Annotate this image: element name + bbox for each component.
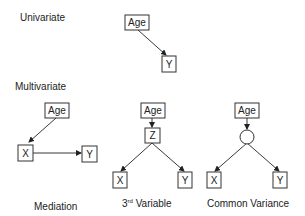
node-age-label: Age <box>128 17 146 28</box>
label-multivariate: Multivariate <box>15 81 67 92</box>
node-x-label: X <box>22 148 29 159</box>
diagram-common-variance: Age X Y <box>207 103 287 188</box>
diagram-third-variable: Age Z X Y <box>113 103 192 188</box>
edge-age-y <box>138 30 166 55</box>
diagram-mediation: Age X Y <box>18 103 97 162</box>
node-age-label: Age <box>48 105 66 116</box>
node-y-label: Y <box>86 149 93 160</box>
label-common-variance: Common Variance <box>207 198 290 209</box>
node-x-label: X <box>211 175 218 186</box>
edge-z-x <box>121 143 152 171</box>
node-age-label: Age <box>238 105 256 116</box>
node-y-label: Y <box>182 175 189 186</box>
node-x-label: X <box>117 175 124 186</box>
edge-age-x <box>29 118 56 142</box>
causal-diagrams: Univariate Multivariate Mediation 3rd Va… <box>0 0 305 216</box>
node-y-label: Y <box>166 59 173 70</box>
latent-variable-circle <box>240 130 254 144</box>
node-y-label: Y <box>277 175 284 186</box>
label-mediation: Mediation <box>34 201 77 212</box>
edge-latent-x <box>215 143 247 171</box>
edge-latent-y <box>247 143 279 171</box>
diagram-univariate: Age Y <box>125 15 176 72</box>
label-third-variable: 3rd Variable <box>122 198 172 209</box>
node-z-label: Z <box>149 130 155 141</box>
node-age-label: Age <box>144 105 162 116</box>
edge-z-y <box>152 143 184 171</box>
label-univariate: Univariate <box>20 12 65 23</box>
